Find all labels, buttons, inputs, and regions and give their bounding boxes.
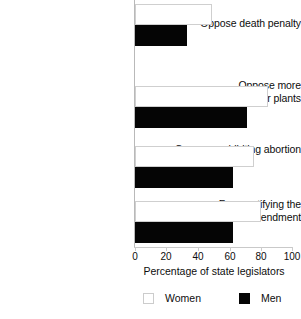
bar-women-favor-ratifying-era [135,201,261,222]
chart-legend: Women Men [143,292,293,304]
plot-area [135,0,293,248]
legend-entry-men: Men [239,292,281,304]
legend-swatch-women-icon [143,293,154,304]
x-tick-label-100: 100 [284,251,301,262]
x-tick-label-0: 0 [132,251,138,262]
x-tick-label-40: 40 [192,251,203,262]
legend-swatch-men-icon [239,293,250,304]
legend-entry-women: Women [143,292,201,304]
legend-label-women: Women [165,292,201,304]
legend-label-men: Men [261,292,281,304]
x-axis-title: Percentage of state legislators [135,265,293,277]
x-tick-label-60: 60 [224,251,235,262]
bar-men-favor-ratifying-era [135,222,233,243]
bar-women-oppose-death-penalty [135,4,212,25]
x-axis-line [134,247,293,248]
bar-women-oppose-prohibiting-abortion [135,146,254,167]
bar-men-oppose-prohibiting-abortion [135,167,233,188]
x-tick-label-80: 80 [255,251,266,262]
bar-chart: Oppose death penalty Oppose more nuclear… [0,0,301,319]
bar-women-oppose-more-nuclear-power-plants [135,86,268,107]
bar-men-oppose-death-penalty [135,25,187,46]
x-tick-label-20: 20 [160,251,171,262]
bar-men-oppose-more-nuclear-power-plants [135,107,247,128]
